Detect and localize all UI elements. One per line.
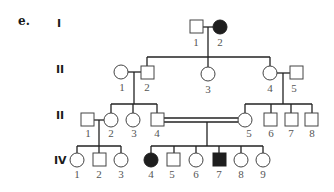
female-symbol [126,113,140,127]
female-symbol [201,67,215,81]
female-symbol [70,153,84,167]
individual-number: 7 [216,168,222,180]
individual-number: 6 [268,127,274,139]
male-symbol [285,113,298,126]
female-symbol [238,113,252,127]
generation-4: 1 2 3 4 5 6 7 8 9 [70,153,270,180]
individual-number: 2 [144,81,150,93]
generation-label-4: IV [54,154,67,167]
female-symbol [189,153,203,167]
male-symbol [81,113,94,126]
individual-number: 8 [238,168,244,180]
individual-number: 4 [148,168,154,180]
individual-number: 2 [108,127,114,139]
generation-2: 1 2 3 4 5 [114,65,303,95]
female-symbol [114,153,128,167]
affected-male-symbol [213,153,226,166]
generation-label-3: II [56,109,64,122]
individual-number: 1 [74,168,80,180]
individual-number: 3 [131,127,137,139]
female-symbol [256,153,270,167]
male-symbol [305,113,318,126]
female-symbol [104,113,118,127]
male-symbol [141,66,154,79]
individual-number: 6 [193,168,199,180]
individual-number: 7 [288,127,294,139]
pedigree-chart: e. I II II IV [0,0,334,192]
female-symbol [114,65,128,79]
male-symbol [167,153,180,166]
individual-number: 1 [119,81,125,93]
individual-number: 3 [118,168,124,180]
generation-label-1: I [57,17,61,30]
male-symbol [151,113,164,126]
individual-number: 5 [291,82,297,94]
generation-3: 1 2 3 4 5 6 7 8 [81,113,318,139]
affected-female-symbol [144,153,158,167]
individual-number: 4 [267,82,273,94]
part-label: e. [18,14,30,28]
individual-number: 2 [96,168,102,180]
male-symbol [290,66,303,79]
affected-female-symbol [213,20,227,34]
individual-number: 4 [154,127,160,139]
female-symbol [263,66,277,80]
generation-label-2: II [56,63,64,76]
female-symbol [234,153,248,167]
individual-number: 3 [205,83,211,95]
individual-number: 5 [169,168,175,180]
individual-number: 8 [309,127,315,139]
male-symbol [93,153,106,166]
individual-number: 2 [217,36,223,48]
male-symbol [190,20,203,33]
male-symbol [264,113,277,126]
individual-number: 5 [246,127,252,139]
individual-number: 9 [260,168,266,180]
individual-number: 1 [193,36,199,48]
individual-number: 1 [85,127,91,139]
